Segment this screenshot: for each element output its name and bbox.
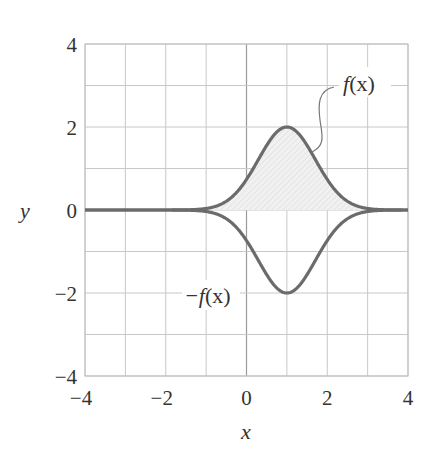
y-tick-label: −2: [55, 282, 77, 306]
y-axis-label: y: [18, 198, 30, 223]
function-plot: −4−2024 −4−2024 f(x) −f(x) x y: [0, 0, 434, 459]
x-tick-labels: −4−2024: [70, 386, 414, 410]
f-label-leader-line: [312, 87, 334, 152]
y-tick-label: −4: [55, 365, 78, 389]
y-tick-label: 2: [67, 116, 78, 140]
x-tick-label: 4: [403, 386, 414, 410]
y-tick-label: 0: [67, 199, 78, 223]
neg-f-label: −f(x): [184, 283, 231, 308]
x-axis-label: x: [240, 419, 251, 444]
f-label: f(x): [343, 71, 375, 96]
x-tick-label: 0: [241, 386, 252, 410]
y-tick-label: 4: [67, 33, 78, 57]
x-tick-label: −2: [151, 386, 173, 410]
x-tick-label: −4: [70, 386, 93, 410]
x-tick-label: 2: [322, 386, 333, 410]
y-tick-labels: −4−2024: [55, 33, 78, 389]
